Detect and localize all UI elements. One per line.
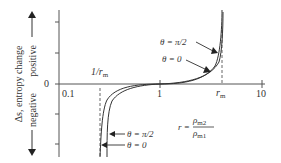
arrowhead-icon <box>109 131 115 137</box>
legend-theta-pi2-bottom: θ = π/2 <box>127 129 154 139</box>
legend-theta-pi2-top: θ = π/2 <box>160 37 187 47</box>
curve-theta-0-positive <box>160 10 222 84</box>
inv-rm-label: 1/rm <box>91 66 109 79</box>
arrow-up-icon <box>28 11 36 18</box>
legend-theta-0-top: θ = 0 <box>162 54 182 64</box>
entropy-change-chart: Δs, entropy change positive negative 0 0… <box>0 0 281 163</box>
leader-theta-pi2-top <box>196 42 213 51</box>
legend-theta-0-bottom: θ = 0 <box>127 140 147 150</box>
formula-numerator: ρm2 <box>192 115 207 127</box>
arrow-down-icon <box>28 149 36 156</box>
arrowhead-icon <box>203 66 211 73</box>
y-axis-label: Δs, entropy change <box>13 45 24 122</box>
arrowhead-icon <box>211 47 218 54</box>
x-tick-label-10: 10 <box>256 88 266 99</box>
leader-theta-0-top <box>186 60 207 70</box>
positive-label: positive <box>27 45 38 77</box>
rm-label: rm <box>216 87 226 100</box>
formula-denominator: ρm1 <box>192 128 207 140</box>
formula-lhs: r = <box>178 122 190 132</box>
negative-label: negative <box>27 93 38 127</box>
x-tick-label-1: 1 <box>157 88 162 99</box>
y-zero-label: 0 <box>44 78 49 89</box>
arrowhead-icon <box>101 142 107 148</box>
x-tick-label-0.1: 0.1 <box>62 88 75 99</box>
